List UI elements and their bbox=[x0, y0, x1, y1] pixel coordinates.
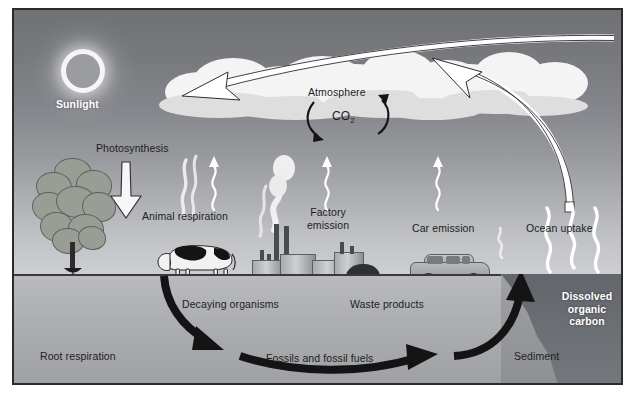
label-atmosphere: Atmosphere bbox=[308, 86, 366, 99]
label-animal-respiration: Animal respiration bbox=[142, 210, 228, 223]
cloud-bank-right bbox=[434, 50, 594, 120]
sun-icon bbox=[66, 54, 100, 88]
label-waste-products: Waste products bbox=[350, 298, 424, 311]
label-ocean-uptake: Ocean uptake bbox=[526, 222, 593, 235]
label-root-respiration: Root respiration bbox=[40, 350, 116, 363]
diagram-page: Sunlight Photosynthesis Atmosphere CO2 A… bbox=[0, 0, 639, 401]
tree-canopy bbox=[32, 158, 114, 254]
label-photosynthesis: Photosynthesis bbox=[96, 142, 169, 155]
factory-vent bbox=[340, 242, 344, 254]
tree-illustration bbox=[30, 158, 116, 284]
co2-text: CO bbox=[332, 109, 350, 123]
label-sunlight: Sunlight bbox=[56, 98, 99, 111]
label-decaying-organisms: Decaying organisms bbox=[182, 298, 279, 311]
car-window-back bbox=[462, 256, 470, 264]
label-co2: CO2 bbox=[332, 110, 355, 128]
label-car-emission: Car emission bbox=[412, 222, 474, 235]
carbon-cycle-figure: Sunlight Photosynthesis Atmosphere CO2 A… bbox=[12, 8, 623, 385]
label-fossils-and-fossil-fuels: Fossils and fossil fuels bbox=[266, 352, 373, 365]
label-dissolved-organic-carbon: Dissolved organic carbon bbox=[550, 290, 623, 328]
factory-vent-2 bbox=[350, 246, 354, 254]
car-window-front bbox=[427, 256, 443, 264]
car-window-rear bbox=[446, 256, 460, 264]
label-sediment: Sediment bbox=[514, 350, 559, 363]
co2-subscript: 2 bbox=[350, 116, 355, 125]
